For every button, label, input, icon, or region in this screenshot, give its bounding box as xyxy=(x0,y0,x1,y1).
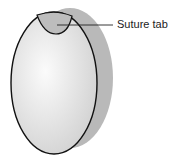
suture-tab-label: Suture tab xyxy=(117,18,168,30)
